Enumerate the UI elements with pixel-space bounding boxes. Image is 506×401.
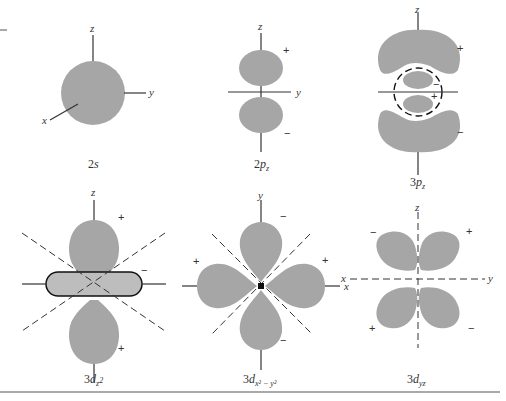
panel-3dz2: z + − + 3dz2 xyxy=(22,186,166,388)
sign-plus-lower-left: + xyxy=(369,322,375,334)
caption-2s: 2s xyxy=(88,157,99,171)
inner-negative-lobe xyxy=(403,71,433,89)
panel-2pz: z y + − 2pz xyxy=(228,20,301,173)
origin-node xyxy=(258,283,264,289)
sign-minus-upper: − xyxy=(280,210,286,222)
sign-minus-inner: − xyxy=(433,78,439,90)
sign-plus: + xyxy=(283,44,289,56)
upper-negative-lobe xyxy=(240,222,282,282)
upper-right-positive-lobe xyxy=(419,232,460,271)
y-axis-label: y xyxy=(295,86,301,98)
caption-3pz: 3pz xyxy=(410,175,426,191)
negative-lobe xyxy=(239,97,283,133)
y-axis-label: y xyxy=(148,86,154,98)
sign-minus-torus: − xyxy=(141,264,147,276)
z-axis-label: z xyxy=(414,3,420,15)
inner-positive-lobe xyxy=(403,95,433,113)
y-axis-label: y xyxy=(487,272,493,284)
panel-3dyz: z x y − + + − 3dyz xyxy=(340,201,493,388)
left-positive-lobe xyxy=(197,264,257,308)
sign-minus-lower: − xyxy=(280,334,286,346)
orbital-figure: z y x 2s z y + − 2pz z + − + − 3pz xyxy=(0,0,506,401)
sign-plus-upper-right: + xyxy=(466,225,472,237)
sign-plus-lower: + xyxy=(118,342,124,354)
z-axis-label: z xyxy=(257,20,263,32)
outer-positive-lobe xyxy=(378,30,460,74)
lower-right-negative-lobe xyxy=(419,287,460,328)
upper-left-negative-lobe xyxy=(376,232,417,271)
sign-plus-inner: + xyxy=(431,90,437,102)
sign-minus-outer: − xyxy=(457,126,463,138)
sign-minus-upper-left: − xyxy=(370,226,376,238)
panel-2s: z y x 2s xyxy=(41,22,154,171)
z-axis-label: z xyxy=(89,22,95,34)
caption-3dyz: 3dyz xyxy=(407,372,427,388)
x-axis-label: x xyxy=(41,114,47,126)
s-orbital-sphere xyxy=(61,61,125,125)
z-axis-label: z xyxy=(90,186,96,198)
z-axis-label: z xyxy=(414,201,420,213)
panel-3dx2-y2: y x − + + − 3dx² − y² xyxy=(182,189,349,388)
panel-3pz: z + − + − 3pz xyxy=(378,3,463,191)
lower-left-positive-lobe xyxy=(376,287,417,328)
caption-3dx2-y2: 3dx² − y² xyxy=(243,372,277,388)
caption-3dz2: 3dz2 xyxy=(84,372,103,388)
sign-minus: − xyxy=(284,127,290,139)
x-axis-label: x xyxy=(340,272,346,284)
torus-negative xyxy=(46,272,142,296)
sign-plus-left: + xyxy=(193,255,199,267)
sign-plus-upper: + xyxy=(118,211,124,223)
positive-lobe xyxy=(239,50,283,86)
y-axis-label: y xyxy=(257,189,263,201)
sign-plus-right: + xyxy=(322,254,328,266)
caption-2pz: 2pz xyxy=(254,157,270,173)
lower-positive-lobe xyxy=(69,300,119,364)
sign-plus-outer: + xyxy=(457,42,463,54)
sign-minus-lower-right: − xyxy=(468,322,474,334)
right-positive-lobe xyxy=(265,264,325,308)
